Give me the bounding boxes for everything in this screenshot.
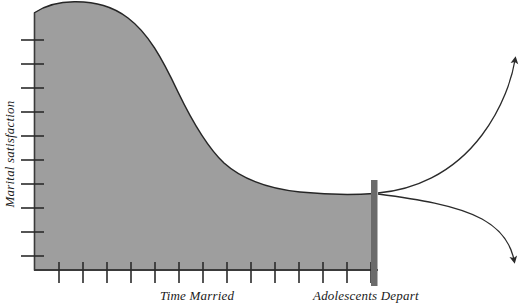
x-axis-label: Time Married (160, 288, 234, 304)
y-axis-label: Marital satisfaction (0, 0, 20, 308)
marital-satisfaction-figure: Marital satisfaction Time Married Adoles… (0, 0, 523, 308)
adolescents-depart-label: Adolescents Depart (313, 288, 419, 304)
chart-canvas (0, 0, 523, 308)
y-axis-label-text: Marital satisfaction (2, 101, 18, 208)
satisfaction-decreases-arrow (378, 194, 514, 260)
satisfaction-increases-arrow (378, 60, 515, 193)
satisfaction-area-fill (34, 2, 374, 270)
adolescents-depart-bar (371, 180, 378, 286)
